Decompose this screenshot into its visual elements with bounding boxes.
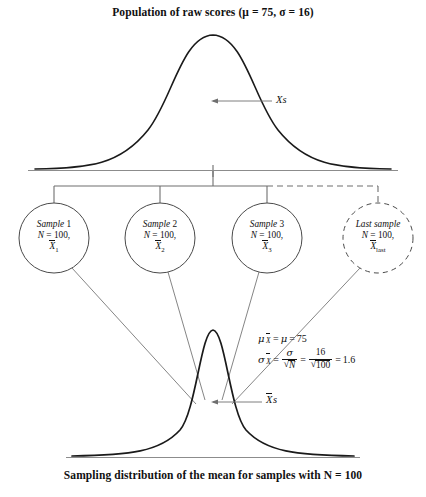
sigma-numerator: σ: [284, 348, 295, 359]
sample-2-index: 2: [173, 219, 178, 229]
sigma-sub-xbar-symbol: σ: [258, 353, 265, 366]
population-xs-text: Xs: [276, 94, 287, 105]
sample-label-1: Sample 1 NN = 100, = 100, X1: [6, 219, 102, 255]
funnel-line-2: [168, 272, 205, 400]
sampling-xs-label: Xs: [266, 394, 277, 405]
sample-3-index: 3: [280, 219, 285, 229]
sqrt-100-radicand: 100: [316, 360, 330, 370]
funnel-line-1: [72, 268, 196, 404]
figure-canvas: Population of raw scores (μ = 75, σ = 16…: [0, 0, 426, 497]
formula-line-mu: μX = μ = 75: [258, 332, 355, 345]
sample-1-name: Sample: [37, 219, 64, 229]
sample-last-name: Last sample: [356, 219, 401, 229]
population-arrow-head: [211, 99, 218, 104]
figure-caption: Sampling distribution of the mean for sa…: [0, 469, 426, 481]
sample-label-2: Sample 2 NN = 100, = 100, X2: [112, 219, 208, 255]
mu-value: 75: [297, 332, 307, 345]
mu-symbol: μ: [281, 332, 288, 345]
mu-sub-xbar-symbol: μ: [258, 332, 265, 345]
formula-eq-2: =: [289, 332, 295, 345]
sample-last-subscript: last: [376, 246, 385, 253]
fraction-sigma-over-sqrt-n: σ N: [282, 348, 297, 370]
formula-eq-3: =: [273, 353, 279, 366]
formula-eq-5: =: [335, 353, 341, 366]
sample-1-subscript: 1: [55, 246, 58, 253]
sample-label-3: Sample 3 NN = 100, = 100, X3: [219, 219, 315, 255]
sixteen-numerator: 16: [314, 348, 328, 359]
sample-2-name: Sample: [143, 219, 170, 229]
sample-3-name: Sample: [250, 219, 277, 229]
sampling-arrow-head: [211, 400, 218, 405]
sample-1-index: 1: [67, 219, 72, 229]
population-curve: [35, 35, 391, 169]
sample-3-subscript: 3: [268, 246, 271, 253]
formula-line-sigma: σX = σ N = 16 100 = 1.6: [258, 348, 355, 370]
population-xs-label: Xs: [276, 94, 287, 105]
sample-label-last: Last sample NN = 100, = 100, Xlast: [330, 219, 426, 255]
formula-eq-1: =: [273, 332, 279, 345]
fraction-16-over-sqrt-100: 16 100: [309, 348, 332, 370]
formula-eq-4: =: [300, 353, 306, 366]
sample-2-subscript: 2: [161, 246, 164, 253]
formula-block: μX = μ = 75 σX = σ N = 16 100 = 1.6: [258, 332, 355, 370]
sqrt-n-radicand: N: [289, 360, 295, 370]
sigma-value: 1.6: [343, 353, 356, 366]
